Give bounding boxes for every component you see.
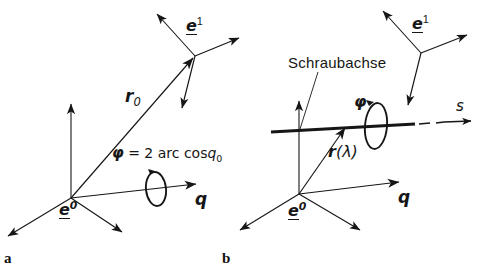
panel-a-label-e1: e1: [186, 16, 203, 35]
screw-axis-dash-1: [419, 123, 430, 124]
panel-b-e1-superscript: 1: [423, 13, 429, 25]
screw-axis-dash-2: [436, 122, 444, 123]
e0-axis-right: [71, 198, 122, 232]
panel-a-e0-symbol: e: [59, 202, 70, 219]
schraubachse-leader-line: [300, 72, 318, 129]
panel-b-e1-axis-right: [421, 35, 467, 53]
panel-b-e0-superscript: 0: [299, 200, 307, 213]
panel-b-vector-r-lambda: [299, 128, 345, 194]
panel-a-e1-symbol: e: [186, 18, 197, 35]
panel-a-label-r0: r0: [125, 88, 141, 109]
panel-b-e1-axis-down: [408, 53, 421, 105]
panel-a-letter: a: [4, 251, 12, 266]
panel-a-r0-subscript: 0: [133, 95, 140, 109]
panel-b-e0-symbol: e: [288, 203, 299, 220]
panel-b-vector-q: [299, 182, 399, 194]
figure-line-art: [0, 0, 479, 270]
schraubachse-caption: Schraubachse: [288, 55, 386, 70]
panel-b-label-q: q: [398, 189, 410, 206]
panel-b-r-argument: (λ): [336, 142, 358, 161]
panel-a-label-q: q: [195, 191, 207, 208]
panel-b-label-s: s: [456, 99, 464, 114]
panel-b-e0-axis-right: [299, 194, 360, 230]
panel-a-label-e0: e0: [59, 201, 77, 219]
panel-a-angle-formula: φ = 2 arc cosq0: [112, 146, 222, 163]
panel-a-vector-q: [71, 184, 196, 198]
panel-b-label-r-lambda: r(λ): [328, 144, 358, 160]
panel-b-label-e0: e0: [288, 202, 306, 220]
screw-axis-figure: e1 e0 r0 q φ = 2 arc cosq0 a Schraubachs…: [0, 0, 479, 270]
panel-b-e1-symbol: e: [412, 16, 423, 33]
panel-b-label-phi: φ: [354, 94, 367, 110]
panel-b-letter: b: [222, 251, 230, 266]
panel-b-vector-s: [444, 121, 471, 122]
panel-b-r-symbol: r: [328, 142, 336, 161]
e1-axis-right: [195, 38, 239, 56]
panel-a-formula-q-subscript: 0: [216, 153, 222, 164]
panel-a-vector-r0: [71, 58, 193, 198]
panel-b-label-e1: e1: [412, 14, 429, 33]
panel-b-artwork: [240, 11, 471, 230]
panel-a-formula-phi: φ: [112, 144, 124, 162]
panel-a-formula-text: = 2 arc cos: [124, 145, 208, 161]
panel-a-e1-superscript: 1: [197, 15, 203, 27]
panel-a-e0-superscript: 0: [70, 199, 78, 212]
